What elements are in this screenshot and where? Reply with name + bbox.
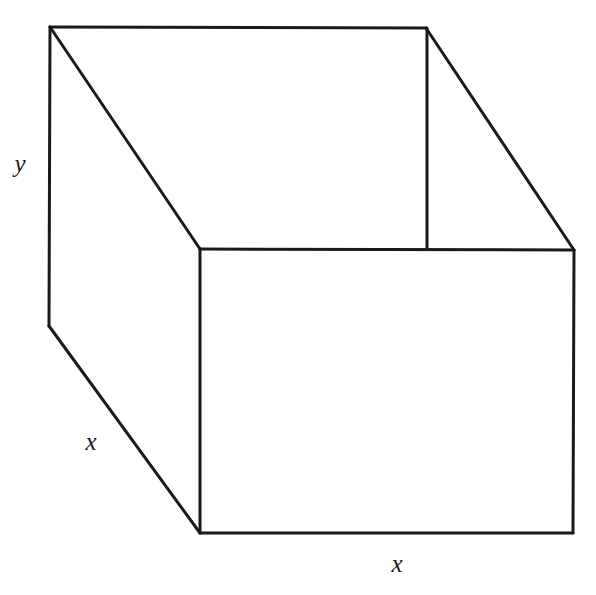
width-label-x: x bbox=[390, 550, 402, 577]
depth-label-x: x bbox=[84, 428, 96, 455]
diagram-background bbox=[0, 0, 596, 595]
top-back-edge bbox=[50, 27, 426, 28]
box-diagram: y x x bbox=[0, 0, 596, 595]
back-left-vertical-edge bbox=[49, 27, 50, 326]
front-right-vertical-edge bbox=[573, 250, 574, 533]
front-top-edge bbox=[200, 249, 574, 250]
height-label-y: y bbox=[11, 150, 26, 177]
